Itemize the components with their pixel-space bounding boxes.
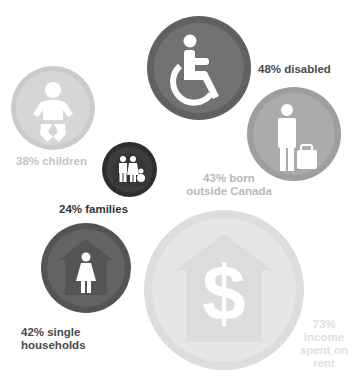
rent-label: 73% income spent on rent [300, 318, 348, 370]
rent-label-line-3: spent on [300, 344, 348, 357]
immigrants-label-line-2: outside Canada [186, 185, 272, 198]
children-label: 38% children [16, 155, 87, 168]
single-households-label: 42% single households [21, 326, 86, 352]
families-label: 24% families [59, 203, 128, 216]
traveler-luggage-icon [247, 87, 341, 181]
children-stat-circle [11, 66, 95, 150]
disabled-label-text: 48% disabled [258, 63, 331, 75]
single-households-label-line-2: households [21, 339, 86, 352]
families-stat-circle [102, 142, 157, 197]
dollar-house-icon: $ [144, 210, 304, 370]
svg-text:$: $ [202, 249, 245, 337]
rent-stat-circle: $ [144, 210, 304, 370]
immigrants-stat-circle [247, 87, 341, 181]
rent-label-line-4: rent [300, 357, 348, 370]
children-label-text: 38% children [16, 155, 87, 167]
rent-label-line-2: income [300, 331, 348, 344]
disabled-stat-circle [147, 16, 251, 120]
wheelchair-icon [147, 16, 251, 120]
families-label-text: 24% families [59, 203, 128, 215]
immigrants-label-line-1: 43% born [186, 172, 272, 185]
rent-label-line-1: 73% [300, 318, 348, 331]
immigrants-label: 43% born outside Canada [186, 172, 272, 198]
single-households-stat-circle [41, 223, 131, 313]
disabled-label: 48% disabled [258, 63, 331, 76]
baby-icon [11, 66, 95, 150]
single-households-label-line-1: 42% single [21, 326, 86, 339]
family-house-icon [102, 142, 157, 197]
woman-house-icon [41, 223, 131, 313]
